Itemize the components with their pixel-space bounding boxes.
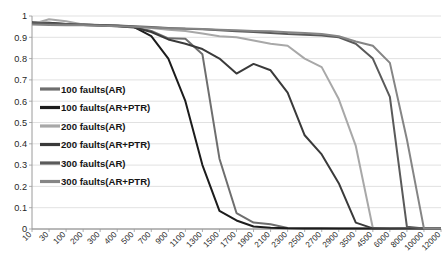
y-tick-label: 0.4 [14,139,27,149]
chart-container: 00.10.20.30.40.50.60.70.80.91 1030100200… [0,0,446,264]
y-tick-label: 1 [22,11,27,21]
legend-label: 200 faults(AR) [61,121,126,132]
legend-label: 100 faults(AR) [61,84,126,95]
y-tick-label: 0.3 [14,160,27,170]
y-tick-label: 0.7 [14,75,27,85]
chart-background [0,0,446,264]
y-tick-label: 0.9 [14,33,27,43]
y-tick-label: 0.1 [14,203,27,213]
y-tick-label: 0.8 [14,54,27,64]
legend-label: 100 faults(AR+PTR) [61,102,150,113]
y-tick-label: 0.6 [14,97,27,107]
y-tick-label: 0.5 [14,118,27,128]
legend-label: 200 faults(AR+PTR) [61,139,150,150]
legend-label: 300 faults(AR) [61,158,126,169]
y-tick-label: 0.2 [14,182,27,192]
line-chart: 00.10.20.30.40.50.60.70.80.91 1030100200… [0,0,446,264]
legend-label: 300 faults(AR+PTR) [61,176,150,187]
